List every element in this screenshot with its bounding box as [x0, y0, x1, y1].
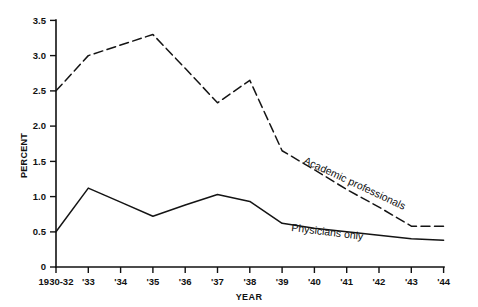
chart-container: PERCENT 3.5 3.0 2.5 2.0 1.5 1.0 0.5 0	[0, 0, 478, 307]
y-tick-label: 3.0	[33, 50, 46, 61]
x-tick-label: 1930-32	[39, 276, 74, 287]
x-tick-label: '40	[308, 276, 321, 287]
x-tick-label: '33	[82, 276, 95, 287]
y-tick-label: 0	[41, 261, 46, 272]
x-axis-title: YEAR	[236, 292, 263, 302]
x-tick-label: '35	[146, 276, 160, 287]
x-tick-label: '42	[373, 276, 386, 287]
x-tick-label: '36	[179, 276, 192, 287]
y-axis-tick-labels: 3.5 3.0 2.5 2.0 1.5 1.0 0.5 0	[33, 15, 47, 272]
x-tick-label: '41	[340, 276, 354, 287]
y-axis-ticks	[50, 20, 56, 267]
x-axis-tick-labels: 1930-32 '33 '34 '35 '36 '37 '38 '39 '40 …	[39, 276, 451, 287]
y-axis-title: PERCENT	[19, 133, 29, 178]
x-tick-label: '34	[114, 276, 128, 287]
y-tick-label: 3.5	[33, 15, 47, 26]
y-tick-label: 1.0	[33, 191, 46, 202]
y-tick-label: 1.5	[33, 156, 47, 167]
series-annotation-physicians-only: Physicians only	[291, 221, 365, 242]
series-annotation-academic-professionals: Academic professionals	[302, 154, 408, 212]
line-chart: PERCENT 3.5 3.0 2.5 2.0 1.5 1.0 0.5 0	[0, 0, 478, 307]
y-tick-label: 0.5	[33, 226, 47, 237]
x-tick-label: '37	[211, 276, 224, 287]
x-axis-ticks	[56, 267, 444, 273]
y-tick-label: 2.5	[33, 85, 47, 96]
x-tick-label: '39	[276, 276, 289, 287]
x-tick-label: '38	[243, 276, 256, 287]
x-tick-label: '44	[437, 276, 451, 287]
y-tick-label: 2.0	[33, 120, 46, 131]
x-tick-label: '43	[405, 276, 418, 287]
